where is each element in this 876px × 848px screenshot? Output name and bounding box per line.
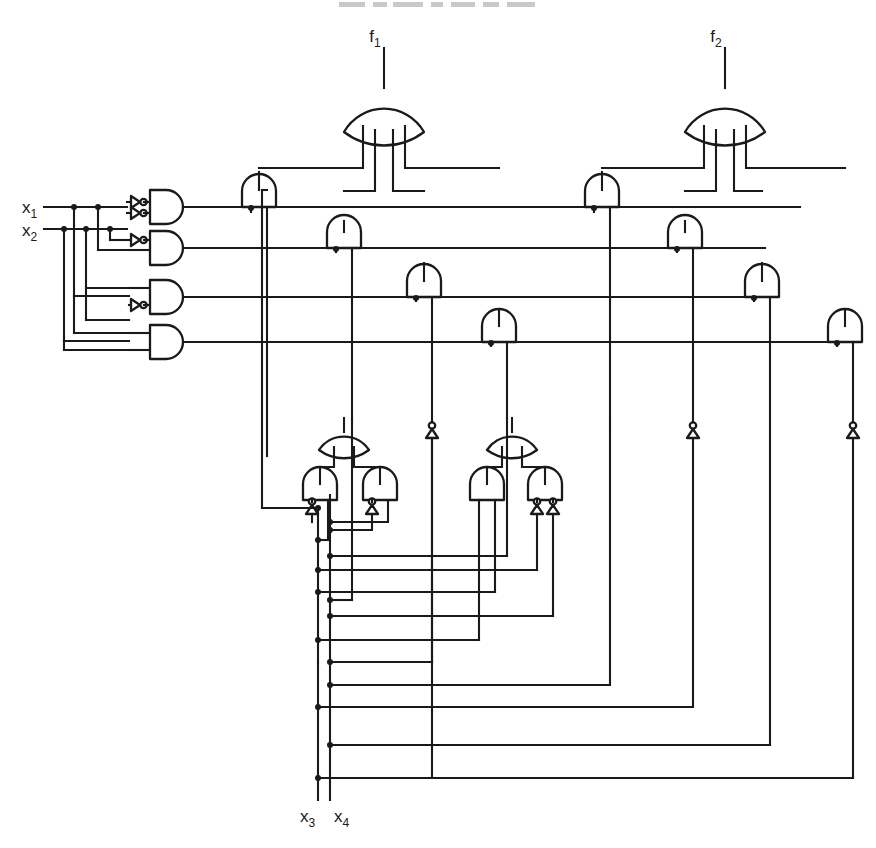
junction-dot [751,295,757,301]
junction-dot [61,226,67,232]
and-gate-b3-group[interactable] [745,263,779,745]
or-gate-right-block[interactable] [487,437,537,459]
junction-dot [327,613,333,619]
and-gate-b2-group[interactable] [668,215,702,424]
inverter-icon[interactable] [687,422,699,438]
junction-dot [413,295,419,301]
junction-dot [327,527,333,533]
junction-dot [315,589,321,595]
label-x2: x2 [22,221,38,244]
junction-dot [327,682,333,688]
junction-dot [674,246,680,252]
junction-dot [327,597,333,603]
junction-dot [327,742,333,748]
lbr-right-in [330,500,388,522]
junction-dot [315,637,321,643]
label-x4: x4 [334,807,350,830]
junction-dot [315,537,321,543]
junction-dot [315,567,321,573]
decoder-gate-4[interactable] [64,325,840,359]
decoder-gate-1[interactable] [127,190,800,224]
inverter-icon[interactable] [847,422,859,438]
input-bus-x1x2 [44,204,129,341]
label-x1: x1 [22,198,38,221]
circuit-schematic: f1 f2 x1 x2 x3 x4 [0,0,876,848]
inline-inverter-c-group[interactable] [847,422,859,778]
and-gate-decoder-1[interactable] [150,190,183,224]
junction-dot [315,704,321,710]
junction-dot [71,204,77,210]
label-f1: f1 [369,27,381,50]
junction-dot [834,340,840,346]
sub-block-right [470,418,562,640]
junction-dot [315,775,321,781]
junction-dot [488,340,494,346]
and-gate-decoder-2[interactable] [150,231,183,265]
junction-dot [83,226,89,232]
and-gate-b4-group[interactable] [828,309,862,424]
junction-dot [315,505,321,511]
junction-dot [591,205,597,211]
junction-dot [333,246,339,252]
and-gate-decoder-3[interactable] [150,280,183,314]
or-gate-f2[interactable] [685,109,765,146]
label-x3: x3 [300,807,316,830]
inverter-icon[interactable] [426,422,438,438]
and-gate-a4-group[interactable] [482,309,516,418]
scan-artifact-strip [335,0,545,9]
and-gate-a1-group[interactable] [242,172,276,456]
or-gate-f1[interactable] [344,109,424,146]
junction-dot [327,519,333,525]
and-gate-a2-group[interactable] [327,215,361,418]
and-gate-a3-group[interactable] [407,263,441,424]
inline-inverter-b-group[interactable] [687,422,699,707]
label-f2: f2 [710,27,722,50]
output-f1-group [344,48,424,146]
junction-dot [327,553,333,559]
or-gate-left-block[interactable] [319,437,369,459]
output-f2-group [685,48,765,146]
junction-dot [327,659,333,665]
circuit-diagram-canvas: f1 f2 x1 x2 x3 x4 [0,0,876,848]
junction-dot [107,226,113,232]
junction-dot [248,205,254,211]
junction-dot [95,204,101,210]
and-gate-decoder-4[interactable] [150,325,183,359]
decoder-gate-3[interactable] [129,280,765,314]
